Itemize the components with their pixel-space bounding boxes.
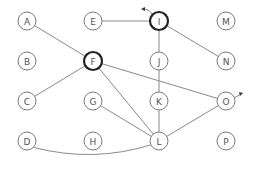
graph-diagram: AEIMBFJNCGKODHLP: [0, 0, 261, 169]
node-e[interactable]: E: [84, 12, 102, 30]
node-label: F: [90, 57, 95, 67]
node-h[interactable]: H: [84, 132, 102, 150]
node-k[interactable]: K: [150, 92, 168, 110]
node-label: H: [90, 137, 97, 147]
edge-f-c: [27, 61, 93, 101]
node-label: L: [156, 137, 161, 147]
edge-i-n: [159, 21, 226, 61]
node-n[interactable]: N: [217, 52, 235, 70]
arrowhead-icon: [141, 7, 145, 11]
node-m[interactable]: M: [217, 12, 235, 30]
node-label: N: [223, 57, 230, 67]
node-a[interactable]: A: [18, 12, 36, 30]
node-b[interactable]: B: [18, 52, 36, 70]
node-label: M: [222, 17, 230, 27]
node-label: D: [24, 137, 31, 147]
node-label: O: [222, 97, 229, 107]
node-label: P: [223, 137, 229, 147]
node-label: A: [24, 17, 31, 27]
node-j[interactable]: J: [150, 52, 168, 70]
node-i[interactable]: I: [150, 12, 168, 30]
node-label: E: [90, 17, 96, 27]
edge-a-f: [27, 21, 93, 61]
edge-l-o: [159, 101, 226, 141]
node-o[interactable]: O: [217, 92, 235, 110]
node-g[interactable]: G: [84, 92, 102, 110]
arrowhead-icon: [239, 92, 243, 96]
node-label: G: [90, 97, 97, 107]
node-label: C: [24, 97, 30, 107]
node-label: J: [157, 57, 161, 67]
edges-layer: [27, 21, 226, 155]
node-p[interactable]: P: [217, 132, 235, 150]
node-label: B: [24, 57, 30, 67]
node-label: I: [158, 17, 161, 27]
nodes-layer: AEIMBFJNCGKODHLP: [18, 12, 235, 150]
node-c[interactable]: C: [18, 92, 36, 110]
node-f[interactable]: F: [84, 52, 102, 70]
edge-f-l: [93, 61, 159, 141]
node-d[interactable]: D: [18, 132, 36, 150]
edge-g-l: [93, 101, 159, 141]
node-l[interactable]: L: [150, 132, 168, 150]
